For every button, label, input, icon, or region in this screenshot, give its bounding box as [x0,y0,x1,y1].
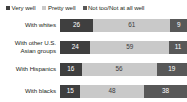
bar-value-not-too-not-at-all-well: 11 [175,44,182,50]
category-label-line: With other U.S. [0,39,56,47]
category-label-with-blacks: With blacks [0,87,60,95]
bar-segment-not-too-not-at-all-well: 19 [157,63,187,76]
chart-rows: With whites 26 61 9 With other U.S. Asia… [0,14,187,102]
legend-item-pretty-well: Pretty well [42,5,75,11]
legend-swatch-not-too-not-at-all-well [83,6,87,10]
legend-swatch-pretty-well [42,6,46,10]
bar-segment-very-well: 16 [60,63,82,76]
bar-value-pretty-well: 48 [109,88,116,94]
bar-value-not-too-not-at-all-well: 19 [168,66,175,72]
legend-item-not-too-not-at-all-well: Not too/Not at all well [83,5,145,11]
legend-label-very-well: Very well [12,5,36,11]
table-row: With blacks 15 48 38 [0,80,187,102]
bar-value-pretty-well: 59 [126,44,133,50]
category-label-with-hispanics: With Hispanics [0,65,60,73]
legend-label-pretty-well: Pretty well [48,5,76,11]
category-label-with-whites: With whites [0,21,60,29]
bar-value-not-too-not-at-all-well: 9 [177,22,181,28]
bar-value-very-well: 26 [73,22,80,28]
bar-value-very-well: 24 [72,44,79,50]
table-row: With whites 26 61 9 [0,14,187,36]
bar-segment-pretty-well: 48 [80,85,144,98]
bar-segment-very-well: 15 [60,85,80,98]
bar-segment-pretty-well: 61 [93,19,170,32]
legend-label-not-too-not-at-all-well: Not too/Not at all well [88,5,144,11]
bar-segment-pretty-well: 59 [90,41,169,54]
bar-segment-very-well: 26 [60,19,93,32]
category-label-line: Asian groups [0,47,56,55]
category-label-line: With Hispanics [0,65,56,73]
chart-legend: Very well Pretty well Not too/Not at all… [0,0,187,13]
category-label-with-other-us-asian-groups: With other U.S. Asian groups [0,39,60,56]
bar-value-very-well: 15 [67,88,74,94]
stacked-bar-with-other-us-asian-groups: 24 59 11 [60,41,187,54]
stacked-bar-chart: Very well Pretty well Not too/Not at all… [0,0,187,102]
stacked-bar-with-hispanics: 16 56 19 [60,63,187,76]
bar-value-very-well: 16 [67,66,74,72]
bar-segment-pretty-well: 56 [82,63,157,76]
bar-segment-not-too-not-at-all-well: 9 [170,19,187,32]
bar-segment-not-too-not-at-all-well: 38 [144,85,187,98]
bar-segment-very-well: 24 [60,41,90,54]
stacked-bar-with-whites: 26 61 9 [60,19,187,32]
bar-value-pretty-well: 61 [128,22,135,28]
table-row: With other U.S. Asian groups 24 59 11 [0,36,187,58]
bar-value-not-too-not-at-all-well: 38 [162,88,169,94]
category-label-line: With blacks [0,87,56,95]
table-row: With Hispanics 16 56 19 [0,58,187,80]
category-label-line: With whites [0,21,56,29]
bar-segment-not-too-not-at-all-well: 11 [169,41,187,54]
stacked-bar-with-blacks: 15 48 38 [60,85,187,98]
legend-swatch-very-well [6,6,10,10]
legend-item-very-well: Very well [6,5,35,11]
bar-value-pretty-well: 56 [116,66,123,72]
